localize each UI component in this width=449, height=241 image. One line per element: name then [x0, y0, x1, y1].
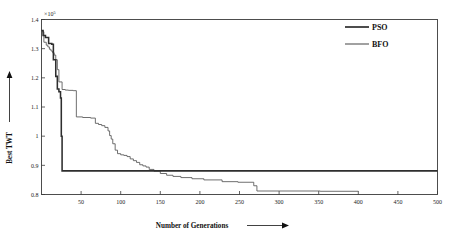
x-tick-label: 300: [275, 199, 284, 205]
data-series-layer: [42, 31, 438, 192]
y-axis-title-group: Best TWT: [6, 71, 14, 164]
x-axis-title-group: Number of Generations: [156, 222, 289, 230]
x-axis-ticks: 50100150200250300350400450500: [78, 191, 442, 205]
chart-figure: 50100150200250300350400450500 0.80.911.1…: [0, 0, 449, 241]
series-line-pso: [42, 31, 438, 171]
x-tick-label: 50: [78, 199, 84, 205]
x-tick-label: 150: [156, 199, 165, 205]
x-tick-label: 100: [116, 199, 125, 205]
y-tick-label: 0.9: [31, 163, 39, 169]
y-axis-arrow-head-icon: [7, 71, 13, 78]
x-axis-title: Number of Generations: [156, 222, 229, 230]
y-tick-label: 1.2: [31, 75, 39, 81]
x-tick-label: 200: [195, 199, 204, 205]
legend-label-bfo: BFO: [372, 40, 388, 49]
x-tick-label: 450: [393, 199, 402, 205]
x-tick-label: 250: [235, 199, 244, 205]
y-axis-exponent-label: ×105: [44, 10, 55, 17]
x-tick-label: 400: [354, 199, 363, 205]
y-axis-ticks: 0.80.911.11.21.31.4: [31, 17, 45, 198]
x-tick-label: 350: [314, 199, 323, 205]
x-axis-arrow-head-icon: [282, 223, 289, 229]
x-tick-label: 500: [433, 199, 442, 205]
y-tick-label: 1.4: [31, 17, 39, 23]
convergence-line-chart: 50100150200250300350400450500 0.80.911.1…: [0, 0, 449, 241]
chart-legend: PSO BFO: [345, 23, 388, 49]
y-axis-title: Best TWT: [6, 132, 14, 164]
y-tick-label: 1.1: [31, 104, 39, 110]
series-line-bfo: [42, 32, 359, 192]
legend-label-pso: PSO: [372, 23, 388, 32]
y-tick-label: 1: [36, 133, 39, 139]
y-tick-label: 0.8: [31, 192, 39, 198]
y-tick-label: 1.3: [31, 46, 39, 52]
